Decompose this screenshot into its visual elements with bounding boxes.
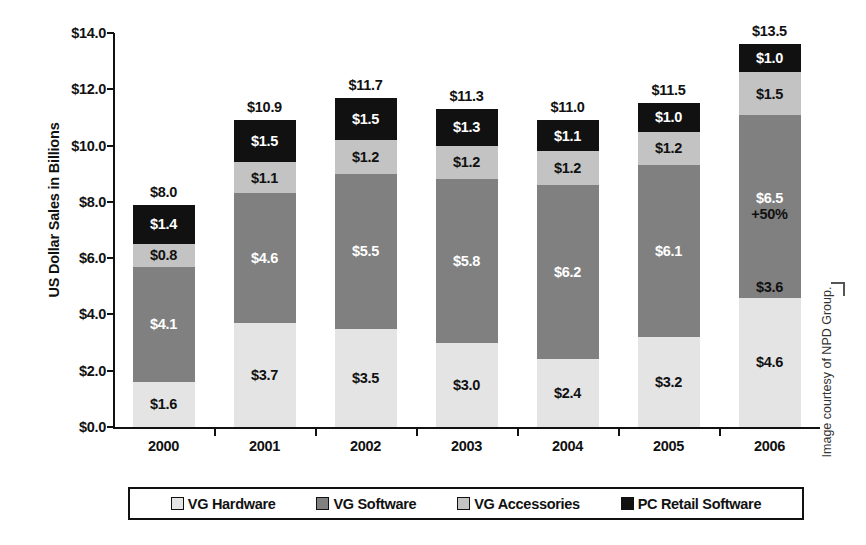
bar-segment-vg-accessories: $0.8 <box>133 244 195 267</box>
credit-text: Image courtesy of NPD Group. <box>820 247 834 497</box>
legend-item-label: PC Retail Software <box>638 496 762 512</box>
bar-segment-vg-software: $6.2 <box>537 185 599 359</box>
y-axis-tick-label: $10.0 <box>0 138 106 154</box>
stacked-bar-chart: US Dollar Sales in Billions $0.0$2.0$4.0… <box>0 0 866 545</box>
legend-item-label: VG Accessories <box>474 496 580 512</box>
y-axis-tick-label: $4.0 <box>0 306 106 322</box>
segment-value-label: $1.0 <box>655 109 682 125</box>
segment-value-label: $5.8 <box>453 253 480 269</box>
segment-value-label: $5.5 <box>352 243 379 259</box>
y-axis-tick-label: $6.0 <box>0 250 106 266</box>
bar-total-label: $10.9 <box>222 99 308 115</box>
bar-segment-vg-software: $4.1 <box>133 267 195 382</box>
bar-total-label: $11.3 <box>424 88 510 104</box>
segment-value-label: $4.6 <box>756 354 783 370</box>
segment-value-label: $3.2 <box>655 374 682 390</box>
legend-item-vg-accessories[interactable]: VG Accessories <box>457 496 580 512</box>
segment-value-label: $6.1 <box>655 243 682 259</box>
segment-value-label: $1.5 <box>352 111 379 127</box>
segment-value-label: $4.1 <box>150 316 177 332</box>
growth-annotation: +50% <box>751 206 787 222</box>
bar-segment-vg-hardware: $1.6 <box>133 382 195 427</box>
segment-value-label: $1.2 <box>453 154 480 170</box>
segment-value-label: $1.6 <box>150 396 177 412</box>
bar-segment-vg-software: $4.6 <box>234 193 296 322</box>
x-axis-tick-mark <box>719 427 721 436</box>
bar-segment-vg-hardware: $3.7 <box>234 323 296 427</box>
segment-value-label: $6.2 <box>554 264 581 280</box>
plot-area: $8.0$1.4$0.8$4.1$1.6$10.9$1.5$1.1$4.6$3.… <box>113 33 820 427</box>
bar-segment-pc-retail-software: $1.5 <box>234 120 296 162</box>
legend-item-vg-hardware[interactable]: VG Hardware <box>171 496 276 512</box>
y-axis-tick-label: $12.0 <box>0 81 106 97</box>
bar-segment-pc-retail-software: $1.4 <box>133 205 195 244</box>
bar-total-label: $11.7 <box>323 77 409 93</box>
legend-swatch-icon <box>316 497 329 510</box>
segment-value-label: $1.5 <box>756 86 783 102</box>
x-axis-tick-mark <box>214 427 216 436</box>
bar-group-2003: $11.3$1.3$1.2$5.8$3.0 <box>436 109 498 427</box>
bar-total-label: $8.0 <box>121 184 207 200</box>
y-axis-tick-label: $8.0 <box>0 194 106 210</box>
legend-item-label: VG Software <box>333 496 416 512</box>
x-axis-label-2005: 2005 <box>624 438 714 454</box>
segment-value-label: $3.0 <box>453 377 480 393</box>
bar-segment-pc-retail-software: $1.3 <box>436 109 498 146</box>
x-axis-label-2004: 2004 <box>523 438 613 454</box>
bar-group-2000: $8.0$1.4$0.8$4.1$1.6 <box>133 205 195 427</box>
segment-value-label: $4.6 <box>251 250 278 266</box>
segment-value-label: $1.2 <box>554 160 581 176</box>
bar-segment-vg-hardware: $4.6 <box>739 298 801 427</box>
segment-value-label: $1.1 <box>554 128 581 144</box>
segment-value-label: $1.2 <box>352 149 379 165</box>
x-axis-tick-mark <box>315 427 317 436</box>
bar-segment-pc-retail-software: $1.0 <box>638 103 700 131</box>
bar-segment-vg-accessories: $1.2 <box>537 151 599 185</box>
chart-legend: VG HardwareVG SoftwareVG AccessoriesPC R… <box>128 487 804 520</box>
legend-swatch-icon <box>171 497 184 510</box>
bar-segment-vg-accessories: $1.5 <box>739 72 801 114</box>
x-axis-line <box>113 427 820 429</box>
bar-group-2005: $11.5$1.0$1.2$6.1$3.2 <box>638 103 700 427</box>
legend-item-vg-software[interactable]: VG Software <box>316 496 416 512</box>
x-axis-label-2006: 2006 <box>725 438 815 454</box>
bar-segment-pc-retail-software: $1.0 <box>739 44 801 72</box>
segment-sub-annotation: $3.6 <box>739 279 801 295</box>
segment-value-label: $3.7 <box>251 367 278 383</box>
segment-value-label: $1.5 <box>251 133 278 149</box>
bar-segment-vg-software: $5.5 <box>335 174 397 329</box>
bar-total-label: $11.0 <box>525 99 611 115</box>
bar-segment-vg-accessories: $1.1 <box>234 162 296 193</box>
x-axis-label-2000: 2000 <box>119 438 209 454</box>
segment-value-label: $3.5 <box>352 370 379 386</box>
bar-stack: $1.5$1.2$5.5$3.5 <box>335 98 397 427</box>
bar-segment-vg-software: $6.5+50%$3.6 <box>739 115 801 298</box>
legend-item-label: VG Hardware <box>188 496 276 512</box>
segment-value-label: $1.2 <box>655 140 682 156</box>
bar-stack: $1.3$1.2$5.8$3.0 <box>436 109 498 427</box>
bar-segment-pc-retail-software: $1.5 <box>335 98 397 140</box>
segment-value-label: $2.4 <box>554 385 581 401</box>
bar-stack: $1.5$1.1$4.6$3.7 <box>234 120 296 427</box>
y-axis-tick-label: $14.0 <box>0 25 106 41</box>
bar-segment-vg-hardware: $2.4 <box>537 359 599 427</box>
segment-value-label: $1.3 <box>453 119 480 135</box>
legend-item-pc-retail-software[interactable]: PC Retail Software <box>621 496 762 512</box>
bar-segment-vg-software: $5.8 <box>436 179 498 342</box>
bar-total-label: $11.5 <box>626 82 712 98</box>
bar-segment-vg-hardware: $3.2 <box>638 337 700 427</box>
bar-stack: $1.1$1.2$6.2$2.4 <box>537 120 599 427</box>
x-axis-tick-mark <box>416 427 418 436</box>
legend-swatch-icon <box>621 497 634 510</box>
bar-segment-vg-software: $6.1 <box>638 165 700 337</box>
segment-value-label: $1.0 <box>756 50 783 66</box>
bar-total-label: $13.5 <box>727 23 813 39</box>
bar-stack: $1.0$1.5$6.5+50%$3.6$4.6 <box>739 44 801 427</box>
x-axis-label-2002: 2002 <box>321 438 411 454</box>
bar-group-2002: $11.7$1.5$1.2$5.5$3.5 <box>335 98 397 427</box>
y-axis-tick-label: $0.0 <box>0 419 106 435</box>
bar-group-2001: $10.9$1.5$1.1$4.6$3.7 <box>234 120 296 427</box>
bar-group-2006: $13.5$1.0$1.5$6.5+50%$3.6$4.6 <box>739 44 801 427</box>
bar-segment-pc-retail-software: $1.1 <box>537 120 599 151</box>
bar-segment-vg-hardware: $3.5 <box>335 329 397 428</box>
